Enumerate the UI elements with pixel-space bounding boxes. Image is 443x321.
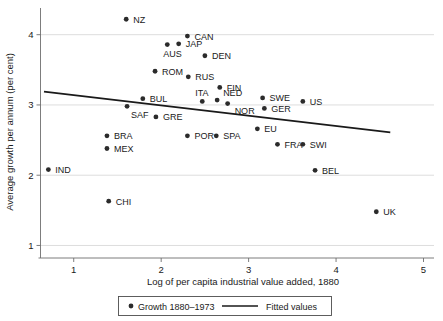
point-marker-fra [275, 142, 280, 147]
point-label-fra: FRA [284, 140, 302, 150]
point-marker-ita [200, 99, 205, 104]
point-marker-bel [313, 168, 318, 173]
data-point-spa: SPA [214, 131, 241, 141]
point-marker-bul [140, 96, 145, 101]
point-marker-ger [262, 106, 267, 111]
data-point-saf: SAF [125, 104, 149, 120]
data-point-den: DEN [202, 51, 230, 61]
y-axis-title: Average growth per annum (per cent) [4, 53, 15, 211]
point-marker-por [185, 133, 190, 138]
point-marker-mex [105, 146, 110, 151]
point-marker-ned [215, 98, 220, 103]
point-label-ned: NED [223, 88, 243, 98]
legend-marker-dot [129, 304, 134, 309]
point-label-rom: ROM [162, 67, 183, 77]
legend-label-fitted: Fitted values [266, 302, 318, 312]
x-tick-label-4: 4 [333, 264, 338, 275]
data-point-nz: NZ [124, 15, 146, 25]
point-label-aus: AUS [163, 49, 182, 59]
point-marker-gre [154, 114, 159, 119]
data-point-ned: NED [215, 88, 243, 102]
data-point-gre: GRE [154, 112, 183, 122]
x-axis-title: Log of per capita industrial value added… [147, 276, 339, 287]
point-label-bel: BEL [322, 166, 339, 176]
point-marker-aus [165, 42, 170, 47]
data-point-ind: IND [46, 165, 71, 175]
point-label-mex: MEX [114, 144, 134, 154]
data-point-eu: EU [255, 124, 277, 134]
point-label-den: DEN [212, 51, 231, 61]
point-label-spa: SPA [223, 131, 240, 141]
point-marker-uk [374, 209, 379, 214]
data-point-chi: CHI [106, 197, 131, 207]
point-label-swe: SWE [270, 93, 291, 103]
data-point-us: US [300, 97, 322, 107]
point-label-jap: JAP [186, 39, 203, 49]
y-tick-label-2: 2 [28, 170, 33, 181]
data-point-bel: BEL [313, 166, 339, 176]
point-label-nor: NOR [235, 106, 256, 116]
data-point-mex: MEX [105, 144, 134, 154]
data-point-swe: SWE [260, 93, 290, 103]
point-marker-fin [217, 85, 222, 90]
data-point-jap: JAP [176, 39, 202, 49]
x-tick-labels: 12345 [71, 264, 426, 275]
data-point-por: POR [185, 131, 214, 141]
data-point-bra: BRA [105, 131, 133, 141]
point-marker-nor [225, 101, 230, 106]
point-marker-rus [186, 74, 191, 79]
point-label-uk: UK [383, 207, 396, 217]
legend-label-growth: Growth 1880–1973 [138, 302, 215, 312]
data-points: NZCANJAPAUSDENROMRUSFINITANEDNORBULSAFGR… [46, 15, 396, 217]
point-marker-bra [105, 133, 110, 138]
point-marker-chi [106, 199, 111, 204]
point-label-por: POR [194, 131, 214, 141]
scatter-plot-svg: 12345 1234 NZCANJAPAUSDENROMRUSFINITANED… [0, 0, 443, 321]
point-label-swi: SWI [310, 140, 327, 150]
x-tick-label-2: 2 [159, 264, 164, 275]
data-point-ger: GER [262, 104, 291, 114]
data-point-fra: FRA [275, 140, 302, 150]
point-marker-spa [214, 133, 219, 138]
point-marker-eu [255, 126, 260, 131]
x-tick-label-1: 1 [71, 264, 76, 275]
y-tick-label-4: 4 [28, 29, 33, 40]
data-point-rus: RUS [186, 72, 214, 82]
y-tick-label-3: 3 [28, 99, 33, 110]
point-label-ger: GER [271, 104, 291, 114]
point-label-bra: BRA [114, 131, 133, 141]
tick-marks [37, 35, 424, 262]
point-marker-den [202, 53, 207, 58]
x-tick-label-5: 5 [421, 264, 426, 275]
data-point-uk: UK [374, 207, 396, 217]
y-tick-label-1: 1 [28, 240, 33, 251]
point-marker-swe [260, 96, 265, 101]
point-label-saf: SAF [131, 110, 149, 120]
point-marker-saf [125, 104, 130, 109]
x-tick-label-3: 3 [246, 264, 251, 275]
point-marker-us [300, 99, 305, 104]
point-label-gre: GRE [163, 112, 183, 122]
point-marker-rom [153, 69, 158, 74]
point-label-eu: EU [264, 124, 277, 134]
data-point-swi: SWI [300, 140, 326, 150]
chart-legend: Growth 1880–1973 Fitted values [119, 297, 332, 316]
point-marker-jap [176, 41, 181, 46]
chart-figure: 12345 1234 NZCANJAPAUSDENROMRUSFINITANED… [0, 0, 443, 321]
point-label-bul: BUL [150, 94, 168, 104]
point-label-chi: CHI [116, 197, 132, 207]
point-label-ita: ITA [195, 88, 208, 98]
point-label-rus: RUS [195, 72, 214, 82]
point-marker-ind [46, 167, 51, 172]
point-marker-can [185, 34, 190, 39]
point-label-us: US [310, 97, 323, 107]
data-point-ita: ITA [195, 88, 208, 104]
point-marker-swi [300, 142, 305, 147]
point-label-nz: NZ [133, 15, 145, 25]
y-tick-labels: 1234 [28, 29, 33, 251]
point-marker-nz [124, 17, 129, 22]
point-label-ind: IND [55, 165, 71, 175]
data-point-rom: ROM [153, 67, 183, 77]
